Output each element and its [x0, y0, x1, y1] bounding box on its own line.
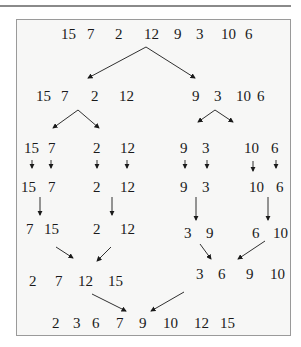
number-merged-pairs: 15: [44, 221, 59, 237]
number-singletons: 7: [48, 179, 56, 195]
number-merged-pairs: 6: [252, 225, 260, 241]
number-input: 12: [144, 26, 159, 42]
split-arrow-right-left: [198, 110, 215, 122]
number-input: 9: [174, 26, 182, 42]
number-merged-quads: 3: [196, 266, 204, 282]
number-merged-pairs: 7: [26, 221, 34, 237]
number-merged-pairs: 9: [206, 225, 214, 241]
number-sorted-output: 12: [194, 315, 209, 331]
split-arrow-left-right: [78, 110, 99, 128]
number-input: 2: [115, 26, 123, 42]
number-singletons: 2: [93, 179, 101, 195]
number-split-halves: 10: [236, 88, 251, 104]
number-sorted-output: 6: [92, 315, 100, 331]
number-input: 6: [245, 26, 253, 42]
number-merged-pairs: 10: [273, 225, 288, 241]
number-merged-quads: 7: [55, 273, 63, 289]
number-merged-quads: 10: [270, 266, 285, 282]
number-singletons: 15: [21, 179, 36, 195]
number-singletons: 3: [202, 179, 210, 195]
number-merged-pairs: 3: [184, 225, 192, 241]
number-split-quarters: 7: [48, 140, 56, 156]
split-arrow-left-left: [53, 110, 78, 128]
number-singletons: 12: [120, 179, 135, 195]
number-split-quarters: 6: [271, 140, 279, 156]
number-split-quarters: 10: [244, 140, 259, 156]
number-split-halves: 12: [119, 88, 134, 104]
number-merged-quads: 15: [108, 273, 123, 289]
number-merged-quads: 9: [246, 266, 254, 282]
number-singletons: 9: [180, 179, 188, 195]
number-split-quarters: 2: [93, 140, 101, 156]
number-sorted-output: 15: [220, 315, 235, 331]
number-sorted-output: 10: [163, 315, 178, 331]
number-split-quarters: 15: [24, 140, 39, 156]
split-arrow-right: [146, 47, 195, 78]
number-input: 3: [196, 26, 204, 42]
number-merged-pairs: 12: [120, 221, 135, 237]
number-singletons: 6: [276, 179, 284, 195]
split-arrow-right-right: [215, 110, 233, 122]
number-split-quarters: 9: [180, 140, 188, 156]
number-merged-quads: 2: [29, 273, 37, 289]
number-split-halves: 15: [36, 88, 51, 104]
number-split-halves: 3: [214, 88, 222, 104]
number-sorted-output: 3: [73, 315, 81, 331]
number-input: 7: [87, 26, 95, 42]
number-merged-pairs: 2: [93, 221, 101, 237]
arrows-layer: [0, 0, 301, 347]
number-sorted-output: 9: [139, 315, 147, 331]
number-singletons: 10: [249, 179, 264, 195]
number-merged-quads: 6: [218, 266, 226, 282]
number-split-halves: 7: [61, 88, 69, 104]
split-arrow-left: [88, 47, 146, 78]
number-input: 10: [221, 26, 236, 42]
number-split-quarters: 3: [202, 140, 210, 156]
number-split-quarters: 12: [120, 140, 135, 156]
number-split-halves: 6: [257, 88, 265, 104]
number-input: 15: [61, 26, 76, 42]
number-sorted-output: 2: [52, 315, 60, 331]
number-split-halves: 9: [192, 88, 200, 104]
number-split-halves: 2: [91, 88, 99, 104]
number-merged-quads: 12: [78, 273, 93, 289]
number-sorted-output: 7: [116, 315, 124, 331]
